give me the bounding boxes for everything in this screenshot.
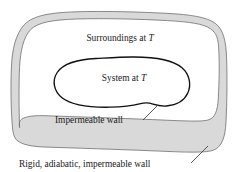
label-surroundings-symbol: T xyxy=(148,33,154,43)
label-impermeable-wall: Impermeable wall xyxy=(55,115,123,125)
label-system-text: System at xyxy=(102,73,141,83)
label-system-symbol: T xyxy=(141,73,147,83)
figure-canvas: Surroundings at T System at T Impermeabl… xyxy=(0,0,239,172)
label-outer-wall: Rigid, adiabatic, impermeable wall xyxy=(19,159,151,169)
label-system: System at T xyxy=(102,73,147,83)
inner-wall-leader-line xyxy=(143,105,158,120)
label-surroundings: Surroundings at T xyxy=(86,33,154,43)
label-surroundings-text: Surroundings at xyxy=(86,33,148,43)
thermodynamic-system-diagram: Surroundings at T System at T Impermeabl… xyxy=(0,0,239,172)
